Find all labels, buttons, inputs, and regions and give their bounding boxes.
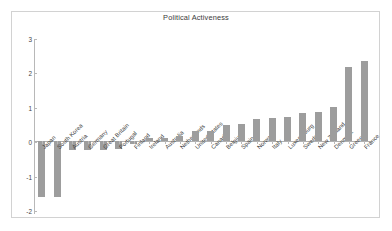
bar	[315, 112, 322, 141]
bar	[207, 131, 214, 141]
y-axis-tick-label: 2	[20, 70, 32, 77]
y-axis-tick-mark	[34, 39, 37, 40]
y-axis-tick-mark	[34, 73, 37, 74]
y-axis-tick-label: 3	[20, 36, 32, 43]
chart-figure: Political Activeness 3210-1-2 JapanSouth…	[0, 0, 392, 231]
bar	[192, 131, 199, 141]
y-axis-tick-mark	[34, 211, 37, 212]
chart-title: Political Activeness	[0, 13, 392, 22]
bar	[238, 124, 245, 141]
y-axis-tick-mark	[34, 142, 37, 143]
y-axis-tick-label: 1	[20, 104, 32, 111]
y-axis-tick-label: -2	[20, 208, 32, 215]
y-axis-tick-mark	[34, 177, 37, 178]
bar	[361, 61, 368, 141]
y-axis-tick-labels: 3210-1-2	[16, 0, 32, 231]
bar	[345, 67, 352, 141]
bar	[299, 113, 306, 141]
bar	[284, 117, 291, 141]
y-axis-tick-label: -1	[20, 173, 32, 180]
bar	[269, 118, 276, 141]
bar	[330, 107, 337, 141]
y-axis-tick-label: 0	[20, 139, 32, 146]
y-axis-tick-mark	[34, 108, 37, 109]
bar	[253, 119, 260, 141]
bar	[223, 125, 230, 141]
